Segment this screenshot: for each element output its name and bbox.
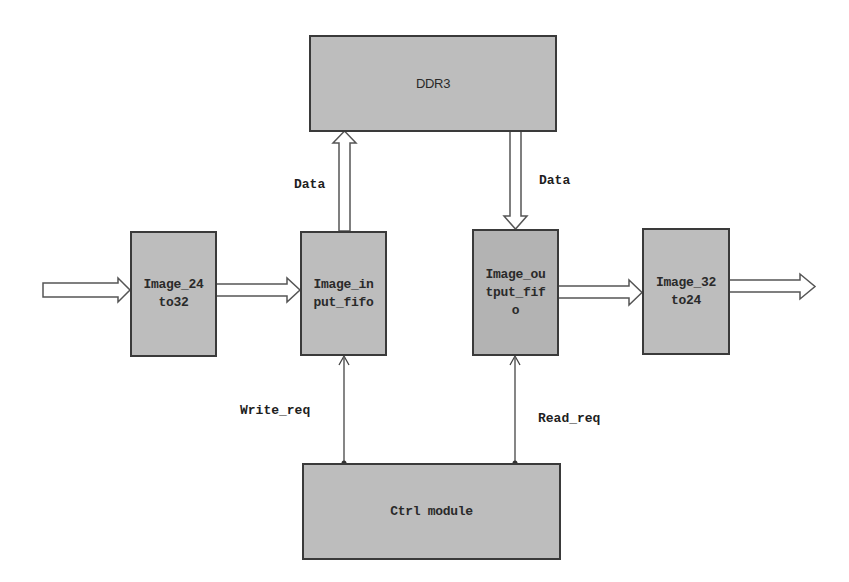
data-read-label: Data — [539, 173, 570, 188]
image-input-fifo-label: Image_in put_fifo — [313, 276, 373, 312]
image-24to32-block: Image_24 to32 — [130, 231, 217, 357]
arrow-input-fifo-to-ddr3 — [333, 131, 356, 231]
image-output-fifo-block: Image_ou tput_fif o — [472, 229, 559, 356]
ddr3-block: DDR3 — [309, 35, 557, 132]
arrow-output-fifo-to-32to24 — [558, 280, 642, 305]
ctrl-module-label: Ctrl module — [390, 503, 473, 521]
write-req-label: Write_req — [240, 403, 310, 418]
image-input-fifo-block: Image_in put_fifo — [300, 231, 387, 356]
input-data-arrow — [43, 278, 130, 302]
image-24to32-label: Image_24 to32 — [143, 276, 203, 312]
arrow-24to32-to-input-fifo — [216, 278, 300, 302]
image-32to24-block: Image_32 to24 — [642, 228, 730, 355]
ddr3-label: DDR3 — [416, 75, 450, 93]
image-output-fifo-label: Image_ou tput_fif o — [485, 266, 545, 320]
arrow-ddr3-to-output-fifo — [504, 131, 527, 229]
data-write-label: Data — [294, 177, 325, 192]
ctrl-module-block: Ctrl module — [302, 463, 561, 560]
image-32to24-label: Image_32 to24 — [656, 274, 716, 310]
output-data-arrow — [729, 274, 815, 299]
read-req-label: Read_req — [538, 411, 600, 426]
